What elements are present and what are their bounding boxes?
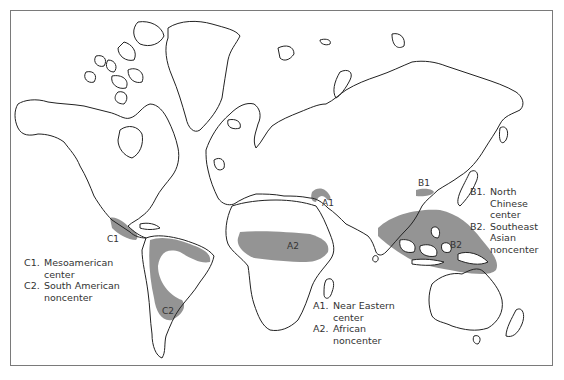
legend-americas: C1. Mesoamericancenter C2. South America…: [24, 257, 120, 303]
legend-item-c1: C1. Mesoamericancenter: [24, 257, 120, 280]
map-label-c1: C1: [107, 234, 119, 244]
map-label-b1: B1: [418, 178, 430, 188]
map-label-a1: A1: [322, 198, 334, 208]
shaded-regions: [110, 189, 497, 321]
australia-coast: [429, 269, 502, 330]
north-america-coast: [15, 100, 179, 238]
legend-asia: B1. NorthChinesecenter B2. SoutheastAsia…: [470, 186, 538, 255]
legend-africa: A1. Near Easterncenter A2. Africannoncen…: [313, 300, 395, 346]
legend-item-a2: A2. Africannoncenter: [313, 323, 395, 346]
map-label-b2: B2: [450, 240, 462, 250]
legend-item-c2: C2. South Americannoncenter: [24, 280, 120, 303]
map-label-a2: A2: [287, 241, 299, 251]
legend-item-b1: B1. NorthChinesecenter: [470, 186, 538, 221]
legend-item-b2: B2. SoutheastAsiannoncenter: [470, 221, 538, 256]
legend-item-a1: A1. Near Easterncenter: [313, 300, 395, 323]
region-a2-african: [238, 231, 329, 262]
coastlines: [15, 21, 524, 358]
map-label-c2: C2: [162, 306, 174, 316]
region-b1-north-chinese: [416, 189, 434, 197]
